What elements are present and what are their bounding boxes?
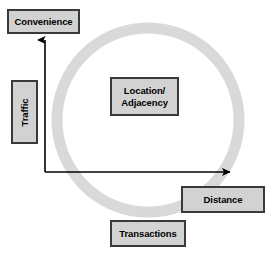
cycle-ring-shape: [57, 28, 239, 212]
node-convenience-label: Convenience: [14, 16, 72, 27]
node-traffic-label: Traffic: [19, 98, 30, 126]
node-location-adjacency-label: Location/ Adjacency: [121, 85, 168, 109]
diagram-canvas: Convenience Traffic Location/ Adjacency …: [0, 0, 272, 254]
node-traffic[interactable]: Traffic: [11, 80, 38, 144]
node-distance-label: Distance: [204, 194, 243, 205]
node-distance[interactable]: Distance: [181, 186, 265, 213]
node-transactions-label: Transactions: [119, 228, 176, 239]
node-transactions[interactable]: Transactions: [110, 220, 186, 247]
node-location-adjacency[interactable]: Location/ Adjacency: [110, 77, 179, 116]
node-convenience[interactable]: Convenience: [7, 9, 80, 34]
diagram-vector-layer: [0, 0, 272, 254]
